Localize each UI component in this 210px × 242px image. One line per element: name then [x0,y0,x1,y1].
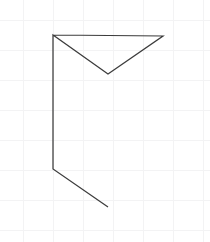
grid-horizontal-lines [0,20,210,230]
grid-vertical-lines [23,0,203,242]
drawing-canvas[interactable] [0,0,210,242]
background-grid [0,0,210,242]
